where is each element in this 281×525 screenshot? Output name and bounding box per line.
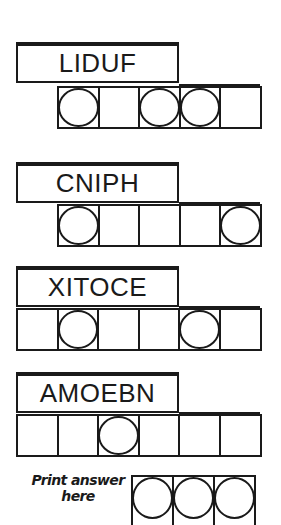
scrambled-word: XITOCE xyxy=(48,272,147,303)
answer-cells xyxy=(57,204,262,247)
letter-cell-circled[interactable] xyxy=(59,310,100,349)
letter-cell[interactable] xyxy=(140,310,181,349)
answer-cells xyxy=(16,308,262,351)
scrambled-word-box: CNIPH xyxy=(16,162,179,203)
letter-cell[interactable] xyxy=(18,416,59,455)
answer-cells xyxy=(57,86,262,129)
letter-cell[interactable] xyxy=(100,88,141,127)
letter-cell-circled[interactable] xyxy=(59,206,100,245)
final-answer-cells xyxy=(131,475,256,525)
scrambled-word: LIDUF xyxy=(59,48,137,79)
letter-cell-circled[interactable] xyxy=(59,88,100,127)
letter-cell-circled[interactable] xyxy=(140,88,181,127)
letter-cell[interactable] xyxy=(180,416,221,455)
final-answer-cell[interactable] xyxy=(215,477,256,525)
scrambled-word: CNIPH xyxy=(56,168,139,199)
final-answer-cell[interactable] xyxy=(174,477,215,525)
scrambled-word-box: XITOCE xyxy=(16,266,179,307)
letter-cell[interactable] xyxy=(221,88,262,127)
letter-cell[interactable] xyxy=(140,206,181,245)
answer-label-line-2: here xyxy=(28,488,128,504)
letter-cell[interactable] xyxy=(59,416,100,455)
answer-cells xyxy=(16,414,262,457)
letter-cell[interactable] xyxy=(221,310,262,349)
scrambled-word-box: LIDUF xyxy=(16,42,179,83)
letter-cell-circled[interactable] xyxy=(221,206,262,245)
scrambled-word: AMOEBN xyxy=(40,378,156,409)
letter-cell[interactable] xyxy=(140,416,181,455)
scrambled-word-box: AMOEBN xyxy=(16,372,179,413)
final-answer-cell[interactable] xyxy=(133,477,174,525)
letter-cell[interactable] xyxy=(100,206,141,245)
print-answer-label: Print answer here xyxy=(28,472,128,504)
letter-cell-circled[interactable] xyxy=(180,310,221,349)
letter-cell-circled[interactable] xyxy=(181,88,222,127)
letter-cell-circled[interactable] xyxy=(99,416,140,455)
letter-cell[interactable] xyxy=(18,310,59,349)
answer-label-line-1: Print answer xyxy=(28,472,128,488)
letter-cell[interactable] xyxy=(221,416,262,455)
letter-cell[interactable] xyxy=(99,310,140,349)
letter-cell[interactable] xyxy=(181,206,222,245)
